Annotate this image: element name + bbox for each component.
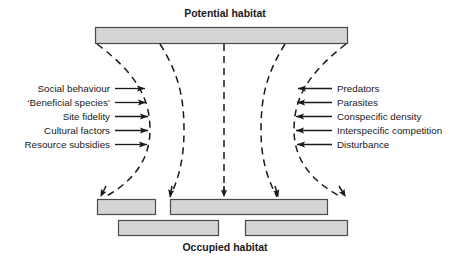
occupied-habitat-bar-2: [171, 200, 328, 215]
left-factor-label-4: Cultural factors: [44, 125, 110, 136]
potential-habitat-bar: [96, 28, 348, 44]
filter-curve-inner-left: [160, 44, 184, 197]
occupied-habitat-bar-1: [98, 200, 156, 215]
right-factor-label-5: Disturbance: [337, 139, 390, 150]
filter-curve-inner-right: [261, 44, 285, 197]
right-factor-label-4: Interspecific competition: [337, 125, 442, 136]
occupied-habitat-heading: Occupied habitat: [182, 241, 268, 253]
flow-arrow-5: [339, 186, 345, 196]
left-factor-label-3: Site fidelity: [63, 111, 110, 122]
occupied-habitat-bar-3: [119, 221, 219, 236]
left-factor-label-2: ‘Beneficial species’: [27, 97, 110, 108]
left-factor-label-5: Resource subsidies: [25, 139, 111, 150]
flow-arrow-1: [101, 186, 106, 196]
right-factor-label-2: Parasites: [337, 97, 378, 108]
potential-habitat-heading: Potential habitat: [184, 7, 266, 19]
habitat-filter-diagram: Potential habitat Social behaviour ‘Bene…: [0, 0, 465, 261]
left-factor-label-1: Social behaviour: [38, 83, 111, 94]
right-factor-label-3: Conspecific density: [337, 111, 422, 122]
right-factor-label-1: Predators: [337, 83, 380, 94]
occupied-habitat-bar-4: [246, 221, 348, 236]
